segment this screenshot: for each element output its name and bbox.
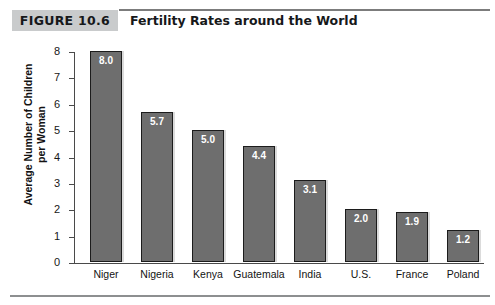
bar-kenya[interactable]: 5.0 bbox=[192, 130, 224, 262]
y-axis-tick: 7 bbox=[69, 78, 74, 79]
figure-header: FIGURE 10.6 Fertility Rates around the W… bbox=[0, 0, 495, 40]
bar-poland[interactable]: 1.2 bbox=[447, 230, 479, 262]
y-axis-tick-label: 4 bbox=[54, 150, 60, 164]
bar-nigeria[interactable]: 5.7 bbox=[141, 112, 173, 262]
x-axis-label-kenya: Kenya bbox=[193, 268, 223, 280]
y-axis-tick: 8 bbox=[69, 52, 74, 53]
y-axis-tick: 5 bbox=[69, 131, 74, 132]
x-axis-label-guatemala: Guatemala bbox=[233, 268, 284, 280]
bar-guatemala[interactable]: 4.4 bbox=[243, 146, 275, 262]
y-axis-tick-label: 0 bbox=[54, 255, 60, 269]
bar-value-label: 2.0 bbox=[346, 213, 376, 224]
plot-area: 876543210 8.05.75.04.43.12.01.91.2 Niger… bbox=[74, 52, 484, 263]
y-axis-tick-label: 8 bbox=[54, 44, 60, 58]
x-axis-label-nigeria: Nigeria bbox=[140, 268, 173, 280]
y-axis-title-line-2: per Woman bbox=[34, 106, 46, 163]
x-axis-label-poland: Poland bbox=[447, 268, 480, 280]
y-axis-tick-label: 5 bbox=[54, 123, 60, 137]
bar-value-label: 1.2 bbox=[448, 234, 478, 245]
y-axis-tick-label: 7 bbox=[54, 70, 60, 84]
bar-value-label: 5.0 bbox=[193, 134, 223, 145]
y-axis-tick: 1 bbox=[69, 237, 74, 238]
bottom-divider bbox=[10, 295, 490, 297]
y-axis-tick: 3 bbox=[69, 184, 74, 185]
x-axis-label-france: France bbox=[396, 268, 429, 280]
header-divider bbox=[119, 9, 490, 11]
x-axis-label-u-s: U.S. bbox=[351, 268, 371, 280]
bar-value-label: 8.0 bbox=[91, 55, 121, 66]
x-axis-label-india: India bbox=[299, 268, 322, 280]
y-axis-tick: 4 bbox=[69, 158, 74, 159]
y-axis-tick-label: 6 bbox=[54, 97, 60, 111]
x-axis-line bbox=[74, 263, 484, 264]
y-axis-title: Average Number of Children per Woman bbox=[22, 40, 47, 230]
y-axis-tick-label: 1 bbox=[54, 229, 60, 243]
y-axis-line bbox=[74, 52, 75, 264]
y-axis-tick-label: 2 bbox=[54, 202, 60, 216]
y-axis-title-line-1: Average Number of Children bbox=[22, 64, 34, 206]
bar-india[interactable]: 3.1 bbox=[294, 180, 326, 262]
bar-value-label: 1.9 bbox=[397, 216, 427, 227]
bar-chart: Average Number of Children per Woman 876… bbox=[0, 40, 495, 288]
y-axis-tick: 0 bbox=[69, 263, 74, 264]
bar-u-s[interactable]: 2.0 bbox=[345, 209, 377, 262]
y-axis-tick-label: 3 bbox=[54, 176, 60, 190]
y-axis-tick: 2 bbox=[69, 210, 74, 211]
figure-title: Fertility Rates around the World bbox=[130, 13, 358, 28]
x-axis-label-niger: Niger bbox=[93, 268, 118, 280]
bar-value-label: 3.1 bbox=[295, 184, 325, 195]
bar-value-label: 4.4 bbox=[244, 150, 274, 161]
bar-france[interactable]: 1.9 bbox=[396, 212, 428, 262]
y-axis-tick: 6 bbox=[69, 105, 74, 106]
figure-number-badge: FIGURE 10.6 bbox=[12, 10, 118, 31]
bar-niger[interactable]: 8.0 bbox=[90, 51, 122, 262]
figure-number-label: FIGURE 10.6 bbox=[20, 13, 110, 28]
bar-value-label: 5.7 bbox=[142, 116, 172, 127]
